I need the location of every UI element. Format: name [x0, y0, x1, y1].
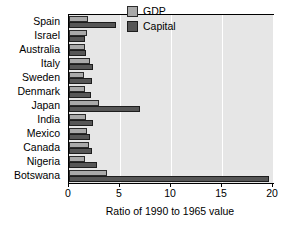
y-axis-label: Israel [0, 28, 64, 42]
gridline [273, 15, 274, 183]
bar-group [69, 85, 273, 99]
bar-capital [69, 148, 92, 154]
tick-label: 5 [116, 188, 122, 199]
tick-label: 15 [215, 188, 227, 199]
y-axis-category-labels: SpainIsraelAustraliaItalySwedenDenmarkJa… [0, 14, 64, 182]
y-axis-label: Spain [0, 14, 64, 28]
bar-capital [69, 106, 140, 112]
tick-label: 0 [65, 188, 71, 199]
bar-group [69, 141, 273, 155]
bar-chart-figure: SpainIsraelAustraliaItalySwedenDenmarkJa… [0, 0, 299, 234]
legend-label: Capital [143, 21, 176, 32]
y-axis-label: Nigeria [0, 154, 64, 168]
bar-capital [69, 120, 93, 126]
bar-group [69, 71, 273, 85]
bar-capital [69, 22, 116, 28]
bar-group [69, 127, 273, 141]
bar-capital [69, 50, 86, 56]
plot-area [68, 14, 274, 184]
bar-group [69, 57, 273, 71]
bar-capital [69, 92, 91, 98]
y-axis-label: Denmark [0, 84, 64, 98]
bar-capital [69, 162, 97, 168]
bar-group [69, 99, 273, 113]
bar-group [69, 113, 273, 127]
bar-group [69, 155, 273, 169]
tick-label: 20 [266, 188, 278, 199]
y-axis-label: Canada [0, 140, 64, 154]
x-axis-title: Ratio of 1990 to 1965 value [68, 205, 272, 217]
tick-label: 10 [164, 188, 176, 199]
bar-capital [69, 176, 269, 182]
bar-capital [69, 78, 92, 84]
chart-legend: GDPCapital [127, 5, 176, 32]
legend-swatch-icon [127, 21, 138, 32]
legend-item: GDP [127, 5, 176, 17]
y-axis-label: India [0, 112, 64, 126]
bar-group [69, 43, 273, 57]
legend-label: GDP [143, 6, 166, 17]
bar-group [69, 169, 273, 183]
y-axis-label: Australia [0, 42, 64, 56]
x-axis-tick-labels: 05101520 [68, 188, 272, 202]
y-axis-label: Japan [0, 98, 64, 112]
bar-capital [69, 64, 93, 70]
y-axis-label: Mexico [0, 126, 64, 140]
bar-groups [69, 15, 273, 183]
legend-swatch-icon [127, 6, 138, 17]
y-axis-label: Botswana [0, 168, 64, 182]
bar-capital [69, 36, 85, 42]
y-axis-label: Italy [0, 56, 64, 70]
legend-item: Capital [127, 20, 176, 32]
y-axis-label: Sweden [0, 70, 64, 84]
bar-capital [69, 134, 90, 140]
